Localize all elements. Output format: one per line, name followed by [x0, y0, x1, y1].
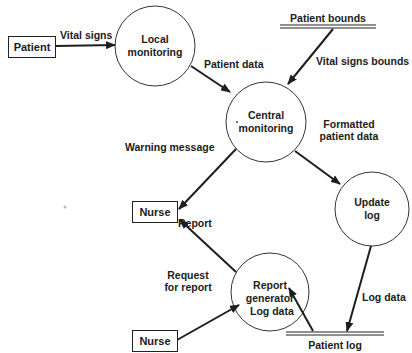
entity-nurse-bottom: Nurse [132, 330, 178, 352]
flow-label-formatted-patient-data: Formatted patient data [312, 118, 386, 142]
store-patient-bounds-label: Patient bounds [280, 12, 376, 24]
process-update-log-line1: Update [354, 196, 390, 209]
entity-nurse-top: Nurse [132, 201, 178, 223]
entity-patient-label: Patient [14, 41, 51, 53]
process-local-monitoring-line1: Local [128, 33, 183, 46]
flow-label-vital-signs: Vital signs [60, 29, 112, 41]
process-update-log-line2: log [354, 209, 390, 222]
entity-nurse-top-label: Nurse [139, 206, 170, 218]
flow-vital-signs [55, 45, 115, 46]
flow-label-report: Report [178, 217, 212, 229]
flow-label-request-for-report: Request for report [164, 269, 212, 293]
data-flow-diagram: Patient Nurse Nurse Local monitoring Cen… [0, 0, 412, 353]
flow-label-patient-data: Patient data [204, 58, 264, 70]
process-central-monitoring: Central monitoring [226, 82, 306, 162]
patient-bounds-store-lines [280, 25, 376, 28]
flow-label-log-data-generator: Log data [250, 305, 294, 317]
flow-label-request-line2: for report [164, 281, 212, 293]
flow-label-formatted-line2: patient data [312, 130, 386, 142]
process-report-generator-line1: Report [246, 279, 294, 292]
process-local-monitoring-line2: monitoring [128, 46, 183, 59]
process-report-generator: Report generator [231, 253, 309, 331]
process-local-monitoring: Local monitoring [115, 6, 195, 86]
store-patient-log-label: Patient log [286, 339, 384, 351]
flow-label-log-data-store: Log data [362, 291, 406, 303]
diagram-lines [0, 0, 412, 353]
flow-formatted-patient-data [295, 151, 340, 184]
entity-nurse-bottom-label: Nurse [139, 335, 170, 347]
flow-label-request-line1: Request [164, 269, 212, 281]
process-central-monitoring-line1: Central [239, 109, 294, 122]
process-central-monitoring-line2: monitoring [239, 122, 294, 135]
flow-request-for-report [177, 305, 239, 340]
flow-label-formatted-line1: Formatted [312, 118, 386, 130]
flow-label-vital-signs-bounds: Vital signs bounds [316, 55, 409, 67]
flow-warning-message [179, 149, 236, 209]
flow-label-warning-message: Warning message [125, 141, 214, 153]
speck-mark [64, 206, 67, 209]
flow-log-data-to-store [347, 246, 371, 331]
patient-log-store-lines [286, 332, 384, 335]
entity-patient: Patient [8, 36, 56, 58]
process-update-log: Update log [335, 172, 409, 246]
process-report-generator-line2: generator [246, 292, 294, 305]
